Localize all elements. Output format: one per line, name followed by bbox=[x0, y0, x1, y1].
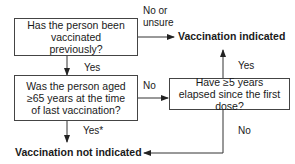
edge-label-q2-no: No bbox=[143, 80, 156, 91]
question-text: Has the person been vaccinated previousl… bbox=[15, 19, 137, 55]
outcome-vaccination-not-indicated: Vaccination not indicated bbox=[15, 146, 142, 158]
edge-label-q3-no: No bbox=[238, 125, 251, 136]
question-text: Was the person aged ≥65 years at the tim… bbox=[15, 80, 137, 116]
question-text: Have ≥5 years elapsed since the first do… bbox=[170, 76, 289, 112]
edge-label-q1-yes: Yes bbox=[84, 62, 100, 73]
edge-label-q1-no-line2: unsure bbox=[143, 17, 174, 28]
question-years-elapsed: Have ≥5 years elapsed since the first do… bbox=[169, 78, 290, 110]
outcome-vaccination-indicated: Vaccination indicated bbox=[178, 30, 285, 42]
edge-label-q3-yes: Yes bbox=[238, 60, 254, 71]
question-age-at-last-vaccination: Was the person aged ≥65 years at the tim… bbox=[14, 75, 138, 121]
edge-label-q2-yes: Yes* bbox=[83, 125, 103, 136]
edge-label-q1-no-line1: No or bbox=[143, 5, 167, 16]
question-previous-vaccination: Has the person been vaccinated previousl… bbox=[14, 18, 138, 56]
